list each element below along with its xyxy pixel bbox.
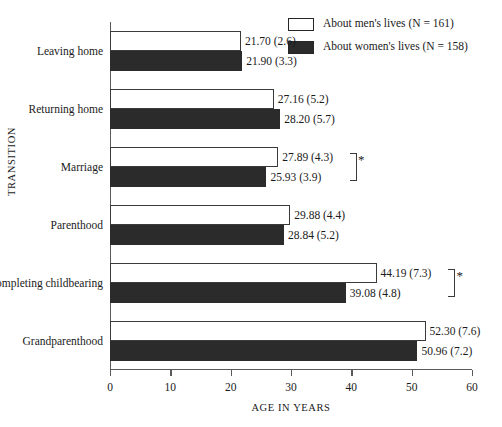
bar-value-label: 39.08 (4.8) (346, 283, 401, 303)
bar-women (110, 283, 346, 303)
bar-value-label: 25.93 (3.9) (266, 167, 321, 187)
bar-value-label: 21.70 (2.6) (241, 31, 296, 51)
bar-men (110, 147, 278, 167)
bar-value-label: 50.96 (7.2) (417, 341, 472, 361)
bar-value-label: 27.89 (4.3) (278, 147, 333, 167)
x-tick (291, 370, 292, 376)
bar-women (110, 109, 280, 129)
bar-men (110, 321, 426, 341)
bar-group: Marriage27.89 (4.3)25.93 (3.9)* (110, 147, 472, 187)
chart-plot-area: Leaving home21.70 (2.6)21.90 (3.3)Return… (110, 22, 472, 370)
category-label: Parenthood (0, 219, 103, 232)
bracket-shape (448, 269, 455, 297)
bar-value-label: 21.90 (3.3) (242, 51, 297, 71)
x-tick-label: 10 (165, 381, 177, 393)
x-tick-label: 40 (346, 381, 358, 393)
bar-men (110, 89, 274, 109)
bar-value-label: 27.16 (5.2) (274, 89, 329, 109)
category-label: Leaving home (0, 45, 103, 58)
bar-value-label: 28.84 (5.2) (284, 225, 339, 245)
bar-women (110, 341, 417, 361)
x-tick (231, 370, 232, 376)
x-tick-label: 50 (406, 381, 418, 393)
bar-women (110, 167, 266, 187)
significance-asterisk: * (456, 271, 463, 281)
category-label: Returning home (0, 103, 103, 116)
bar-men (110, 205, 290, 225)
y-axis-line (110, 22, 111, 370)
x-tick-label: 0 (107, 381, 113, 393)
bracket-shape (350, 153, 357, 181)
bar-group: Parenthood29.88 (4.4)28.84 (5.2) (110, 205, 472, 245)
bar-group: Completing childbearing44.19 (7.3)39.08 … (110, 263, 472, 303)
bar-women (110, 51, 242, 71)
x-axis-title: AGE IN YEARS (110, 402, 472, 413)
bar-group: Returning home27.16 (5.2)28.20 (5.7) (110, 89, 472, 129)
x-tick (472, 370, 473, 376)
bar-group: Leaving home21.70 (2.6)21.90 (3.3) (110, 31, 472, 71)
x-tick (412, 370, 413, 376)
x-tick-label: 30 (285, 381, 297, 393)
bar-value-label: 28.20 (5.7) (280, 109, 335, 129)
x-tick (170, 370, 171, 376)
bar-men (110, 31, 241, 51)
bar-value-label: 29.88 (4.4) (290, 205, 345, 225)
x-tick-label: 60 (466, 381, 478, 393)
bar-value-label: 52.30 (7.6) (426, 321, 481, 341)
x-tick-label: 20 (225, 381, 237, 393)
bar-women (110, 225, 284, 245)
category-label: Completing childbearing (0, 277, 103, 290)
bar-value-label: 44.19 (7.3) (377, 263, 432, 283)
x-tick (110, 370, 111, 376)
x-tick (351, 370, 352, 376)
significance-asterisk: * (358, 155, 365, 165)
bar-men (110, 263, 377, 283)
category-label: Grandparenthood (0, 335, 103, 348)
bar-group: Grandparenthood52.30 (7.6)50.96 (7.2) (110, 321, 472, 361)
y-axis-title: TRANSITION (6, 127, 17, 196)
